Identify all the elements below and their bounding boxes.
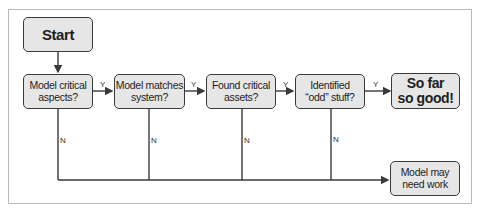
edge-label-no: N [333, 135, 339, 144]
edge-label-yes: Y [373, 80, 378, 89]
node-label: Model matches system? [116, 80, 183, 102]
node-model-matches-system: Model matches system? [114, 74, 185, 109]
node-label: Found critical assets? [212, 80, 270, 102]
node-start-label: Start [42, 27, 74, 43]
edge-label-no: N [151, 136, 157, 145]
edge-label-yes: Y [191, 80, 196, 89]
node-model-critical-aspects: Model critical aspects? [23, 74, 93, 109]
edge-label-yes: Y [100, 80, 105, 89]
node-model-may-need-work: Model may need work [390, 161, 460, 196]
node-label: Identified “odd” stuff? [305, 80, 354, 102]
node-label: Model may need work [401, 167, 450, 189]
node-so-far-so-good: So far so good! [391, 73, 460, 109]
node-identified-odd-stuff: Identified “odd” stuff? [295, 74, 365, 109]
node-label: Model critical aspects? [29, 80, 86, 102]
edge-label-yes: Y [283, 80, 288, 89]
node-label: So far so good! [398, 76, 454, 105]
edge-label-no: N [60, 136, 66, 145]
node-found-critical-assets: Found critical assets? [206, 74, 276, 109]
edge-label-no: N [244, 136, 250, 145]
node-start: Start [23, 17, 93, 52]
